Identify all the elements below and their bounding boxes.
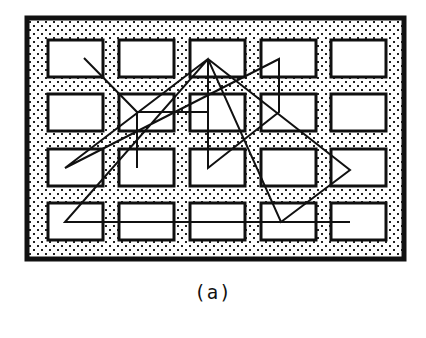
grid-cell-r1-c2 bbox=[119, 40, 174, 77]
grid-cell-r3-c2 bbox=[119, 149, 174, 186]
grid-cell-r3-c1 bbox=[48, 149, 103, 186]
grid-cell-r3-c5 bbox=[331, 149, 386, 186]
grid-cell-r2-c5 bbox=[331, 94, 386, 131]
grid-cell-r1-c4 bbox=[261, 40, 316, 77]
grid-cell-r1-c1 bbox=[48, 40, 103, 77]
figure-caption: (a) bbox=[0, 281, 426, 303]
grid-cell-r1-c5 bbox=[331, 40, 386, 77]
grid-cell-r2-c4 bbox=[261, 94, 316, 131]
grid-cell-r3-c4 bbox=[261, 149, 316, 186]
grid-cell-r2-c1 bbox=[48, 94, 103, 131]
grid-cell-r3-c3 bbox=[190, 149, 245, 186]
